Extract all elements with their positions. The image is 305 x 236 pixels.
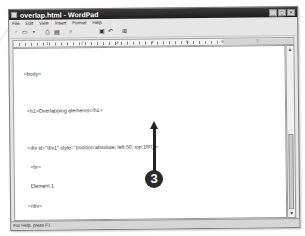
document-text: <body> <h1>Overlapping elements</h1> <di… [13, 46, 287, 221]
ruler-label: 2 [81, 40, 83, 45]
ruler-label: 7 [256, 38, 258, 43]
save-icon[interactable]: ▪ [30, 29, 37, 36]
new-icon[interactable]: ▫ [12, 29, 19, 36]
scroll-down-icon[interactable]: ▼ [288, 210, 295, 217]
menu-edit[interactable]: Edit [25, 21, 33, 26]
print-preview-icon[interactable]: ▤ [53, 28, 60, 35]
menu-view[interactable]: View [39, 21, 49, 26]
scroll-up-icon[interactable]: ▲ [286, 46, 293, 53]
wordpad-window: overlap.html - WordPad _ □ × File Edit V… [8, 6, 300, 231]
wordpad-app-icon [11, 12, 17, 18]
insert-object-icon[interactable]: ⊞ [121, 28, 128, 35]
callout-arrow-icon [153, 128, 156, 174]
ruler-label: 3 [116, 40, 118, 45]
print-icon[interactable]: ⎙ [44, 29, 51, 36]
ruler-label: 5 [186, 39, 188, 44]
code-line: </div> [25, 200, 286, 209]
menu-file[interactable]: File [12, 21, 19, 26]
menu-format[interactable]: Format [72, 20, 86, 25]
maximize-button[interactable]: □ [278, 9, 286, 16]
document-editor[interactable]: <body> <h1>Overlapping elements</h1> <di… [12, 45, 287, 221]
code-line: <h1>Overlapping elements</h1> [24, 105, 285, 114]
close-button[interactable]: × [287, 8, 295, 15]
status-bar: For Help, press F1 [11, 218, 299, 230]
ruler-label: 6 [221, 39, 223, 44]
callout-step-badge: 3 [145, 170, 163, 188]
minimize-button[interactable]: _ [269, 9, 277, 16]
ruler-label: 4 [151, 39, 153, 44]
menu-help[interactable]: Help [92, 20, 101, 25]
paste-icon[interactable]: ▣ [98, 28, 105, 35]
open-icon[interactable]: ▭ [21, 29, 28, 36]
vertical-scrollbar[interactable]: ▲ ▼ [285, 45, 296, 218]
code-line: <body> [24, 68, 285, 77]
undo-icon[interactable]: ↶ [107, 28, 114, 35]
scrollbar-thumb[interactable] [288, 134, 294, 209]
menu-insert[interactable]: Insert [55, 20, 66, 25]
ruler-label: 1 [46, 41, 48, 46]
find-icon[interactable]: ⌕ [67, 28, 74, 35]
